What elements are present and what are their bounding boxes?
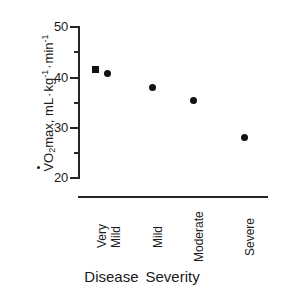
y-title-min: min: [41, 42, 56, 63]
x-category-label-mild: Mild: [152, 226, 164, 248]
y-tick-label-40-wrap: 40: [44, 71, 68, 84]
y-tick-label-30-wrap: 30: [44, 121, 68, 134]
y-tick-minor-45: [74, 51, 79, 53]
data-point-very-mild-square: [92, 66, 99, 73]
y-title-ml: mL: [41, 98, 56, 116]
data-point-mild-circle: [149, 84, 156, 91]
x-axis-title-word-2: Severity: [146, 268, 200, 285]
y-tick-minor-35: [74, 102, 79, 104]
x-category-label-very-mild-second: Mild: [110, 226, 122, 248]
data-point-moderate-circle: [190, 97, 197, 104]
y-title-min-exponent: -1: [40, 34, 50, 42]
data-point-severe-circle: [241, 134, 248, 141]
y-tick-30: [70, 127, 79, 129]
y-tick-label-20-wrap: 20: [44, 171, 68, 184]
x-category-label-moderate: Moderate: [193, 211, 205, 262]
y-title-sep-1: ·: [41, 92, 56, 98]
y-title-subscript-two: 2: [47, 148, 57, 153]
y-axis-title-text: VO2max, mL·kg-1·min-1: [38, 34, 60, 171]
y-tick-20: [70, 177, 79, 179]
y-tick-label-40: 40: [46, 71, 68, 84]
y-title-sep-2: ·: [41, 63, 56, 69]
y-tick-50: [70, 26, 79, 28]
x-axis-title-word-1: Disease: [84, 268, 138, 285]
vo2max-disease-severity-chart: VO2max, mL·kg-1·min-1 50 40 30 20 Very M…: [0, 0, 284, 298]
x-axis-title: DiseaseSeverity: [0, 268, 284, 285]
data-point-very-mild-circle: [104, 70, 111, 77]
y-title-o: O: [41, 153, 56, 163]
x-category-label-severe: Severe: [244, 218, 256, 256]
x-category-label-very: Very: [96, 224, 108, 248]
x-axis-line: [78, 196, 268, 198]
y-tick-label-30: 30: [46, 121, 68, 134]
y-tick-label-50: 50: [46, 20, 68, 33]
y-tick-label-20: 20: [46, 171, 68, 184]
y-tick-label-50-wrap: 50: [44, 20, 68, 33]
y-tick-minor-25: [74, 152, 79, 154]
y-tick-40: [70, 77, 79, 79]
